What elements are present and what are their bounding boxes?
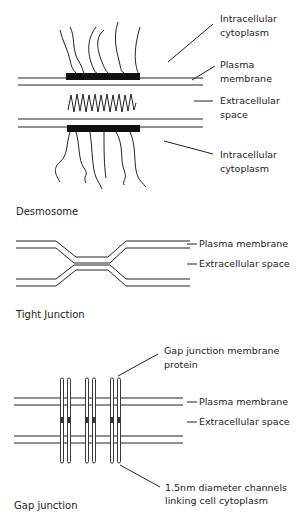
desmosome-diagram: Intracellular cytoplasm Plasma membrane … xyxy=(16,13,280,217)
label-gj-plasma: Plasma membrane xyxy=(199,396,288,407)
caption-gap-junction: Gap junction xyxy=(14,500,78,511)
cell-junctions-diagram: Intracellular cytoplasm Plasma membrane … xyxy=(0,0,297,516)
label-plasma-1: Plasma xyxy=(220,59,254,70)
tight-junction-diagram: Plasma membrane Extracellular space Tigh… xyxy=(15,238,290,320)
label-gj-extracellular: Extracellular space xyxy=(199,416,290,427)
label-intracellular-top-1: Intracellular xyxy=(220,13,277,24)
tj-membrane-bottom-inner xyxy=(16,265,190,279)
desmosome-top-filaments xyxy=(60,22,140,73)
leader-intracellular-bottom xyxy=(164,141,213,154)
label-gj-protein-2: protein xyxy=(164,359,198,370)
leader-gj-channels xyxy=(120,465,160,487)
gj-connexon-proteins xyxy=(61,378,121,463)
leader-intracellular-top xyxy=(168,24,213,62)
label-gj-protein-1: Gap junction membrane xyxy=(164,345,279,356)
label-extracellular-2: space xyxy=(220,109,248,120)
caption-tight-junction: Tight Junction xyxy=(15,309,85,320)
tj-membrane-top-outer xyxy=(16,241,190,257)
gap-junction-diagram: Gap junction membrane protein Plasma mem… xyxy=(14,345,290,511)
label-gj-channels-2: linking cell cytoplasm xyxy=(165,495,268,506)
label-intracellular-bottom-1: Intracellular xyxy=(220,149,277,160)
leader-gj-protein xyxy=(118,354,158,376)
label-gj-channels-1: 1.5nm diameter channels xyxy=(165,482,287,493)
desmosome-bottom-plaque xyxy=(67,125,140,132)
caption-desmosome: Desmosome xyxy=(16,206,78,217)
label-extracellular-1: Extracellular xyxy=(220,95,280,106)
label-plasma-2: membrane xyxy=(220,73,272,84)
leader-plasma-membrane xyxy=(192,66,215,80)
label-intracellular-top-2: cytoplasm xyxy=(220,27,269,38)
tj-membrane-bottom-outer xyxy=(16,270,190,286)
label-intracellular-bottom-2: cytoplasm xyxy=(220,163,269,174)
label-tj-extracellular: Extracellular space xyxy=(199,258,290,269)
desmosome-bottom-filaments xyxy=(55,132,146,189)
desmosome-extracellular-linkers xyxy=(68,94,136,112)
tj-membrane-top-inner xyxy=(16,248,190,263)
desmosome-top-plaque xyxy=(66,73,140,80)
label-tj-plasma: Plasma membrane xyxy=(199,238,288,249)
